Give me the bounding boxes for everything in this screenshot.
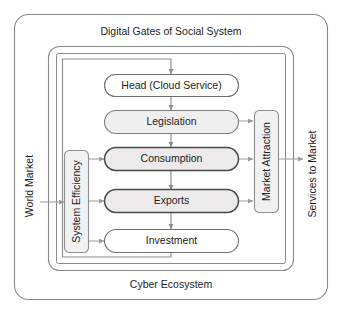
node-head-label: Head (Cloud Service) (121, 79, 221, 91)
diagram-title: Digital Gates of Social System (100, 25, 241, 37)
node-legislation-label: Legislation (146, 115, 196, 127)
diagram-svg: Digital Gates of Social System Cyber Eco… (0, 0, 342, 314)
diagram-canvas: Digital Gates of Social System Cyber Eco… (0, 0, 342, 314)
node-investment-label: Investment (146, 234, 197, 246)
label-services-to-market: Services to Market (306, 130, 318, 217)
node-consumption-label: Consumption (141, 152, 203, 164)
diagram-footer: Cyber Ecosystem (130, 278, 213, 290)
label-world-market: World Market (23, 155, 35, 217)
label-system-efficiency: System Efficiency (70, 159, 82, 242)
node-exports-label: Exports (154, 194, 190, 206)
label-market-attraction: Market Attraction (260, 122, 272, 201)
